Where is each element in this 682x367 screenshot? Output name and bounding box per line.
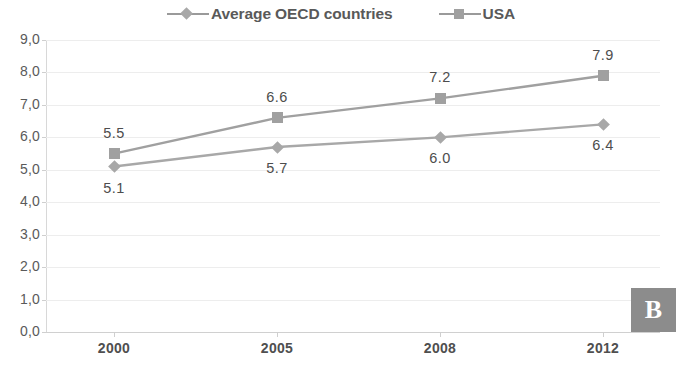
y-axis-label: 4,0 — [6, 193, 40, 209]
y-axis-label: 7,0 — [6, 96, 40, 112]
data-point-marker — [109, 148, 120, 159]
data-point-label: 5.1 — [84, 180, 144, 196]
data-point-marker — [435, 93, 446, 104]
series-markers-and-labels: 5.15.76.06.45.56.67.27.9 — [46, 40, 660, 332]
y-axis-label: 0,0 — [6, 323, 40, 339]
legend-item-oecd: Average OECD countries — [167, 5, 393, 23]
x-axis-label: 2000 — [69, 340, 159, 356]
x-tick — [277, 332, 278, 337]
x-tick — [603, 332, 604, 337]
data-point-label: 5.5 — [84, 125, 144, 141]
x-axis-label: 2008 — [395, 340, 485, 356]
x-axis-line — [46, 332, 660, 333]
diamond-marker-icon — [167, 7, 209, 21]
data-point-label: 5.7 — [247, 160, 307, 176]
y-axis-label: 3,0 — [6, 226, 40, 242]
data-point-marker — [434, 131, 447, 144]
x-axis-label: 2012 — [558, 340, 648, 356]
data-point-label: 7.9 — [573, 47, 633, 63]
legend-label-usa: USA — [483, 5, 515, 23]
data-point-marker — [598, 70, 609, 81]
y-tick — [42, 332, 46, 333]
chart-plot-area: 5.15.76.06.45.56.67.27.9 — [46, 40, 660, 332]
data-point-marker — [597, 118, 610, 131]
data-point-marker — [272, 112, 283, 123]
data-point-label: 6.0 — [410, 150, 470, 166]
legend-label-oecd: Average OECD countries — [211, 5, 393, 23]
panel-label-b: B — [631, 288, 676, 332]
chart-legend: Average OECD countries USA — [0, 0, 682, 28]
data-point-label: 7.2 — [410, 69, 470, 85]
data-point-label: 6.6 — [247, 89, 307, 105]
y-axis-label: 2,0 — [6, 258, 40, 274]
data-point-label: 6.4 — [573, 137, 633, 153]
x-axis-label: 2005 — [232, 340, 322, 356]
data-point-marker — [271, 141, 284, 154]
legend-item-usa: USA — [439, 5, 515, 23]
y-axis-label: 9,0 — [6, 31, 40, 47]
y-axis-label: 1,0 — [6, 291, 40, 307]
x-tick — [440, 332, 441, 337]
x-tick — [114, 332, 115, 337]
y-axis-label: 8,0 — [6, 63, 40, 79]
y-axis-label: 5,0 — [6, 161, 40, 177]
square-marker-icon — [439, 7, 481, 21]
data-point-marker — [108, 160, 121, 173]
y-axis-label: 6,0 — [6, 128, 40, 144]
